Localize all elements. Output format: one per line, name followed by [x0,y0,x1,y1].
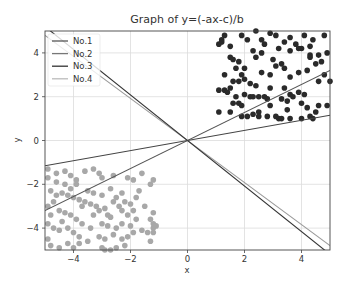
data-point [247,81,253,87]
data-point [250,48,256,54]
data-point [322,33,328,39]
data-point [265,114,271,120]
data-point [54,192,60,198]
data-point [45,175,51,181]
data-point [79,221,85,227]
data-point [76,197,82,203]
data-point [250,94,256,100]
data-point [71,230,77,236]
data-point [119,236,125,242]
data-point [270,57,276,63]
data-point [125,212,131,218]
data-point [287,35,293,41]
data-point [125,175,131,181]
data-point [313,61,319,67]
data-point [88,201,94,207]
data-point [91,212,97,218]
data-point [74,177,80,183]
x-tick-label: −2 [124,254,137,264]
legend-label: No.2 [73,49,93,59]
data-point [91,166,97,172]
data-point [119,221,125,227]
data-point [216,87,222,93]
data-point [122,199,128,205]
data-point [242,65,248,71]
data-point [111,232,117,238]
data-point [230,57,236,63]
data-point [94,203,100,209]
data-point [74,217,80,223]
data-point [267,85,273,91]
data-point [256,114,262,120]
data-point [45,221,51,227]
data-point [245,37,251,43]
data-point [236,79,242,85]
data-point [290,94,296,100]
data-point [267,72,273,78]
data-point [316,52,322,58]
data-point [96,234,102,240]
data-point [310,37,316,43]
data-point [54,171,60,177]
data-point [105,223,111,229]
data-point [48,212,54,218]
data-point [128,223,134,229]
data-point [242,92,248,98]
data-point [227,109,233,115]
data-point [133,195,139,201]
data-point [296,90,302,96]
data-point [256,94,262,100]
data-point [148,238,154,244]
data-point [304,105,310,111]
data-point [313,109,319,115]
data-point [51,225,57,231]
data-point [59,219,65,225]
data-point [239,33,245,39]
data-point [273,33,279,39]
data-point [102,206,108,212]
data-point [250,111,256,117]
data-point [139,227,145,233]
data-point [111,199,117,205]
data-point [299,100,305,106]
data-point [99,175,105,181]
data-point [324,103,330,109]
data-point [304,68,310,74]
data-point [76,241,82,247]
data-point [233,65,239,71]
data-point [65,192,71,198]
data-point [88,225,94,231]
y-tick-label: 0 [34,136,39,146]
data-point [85,238,91,244]
data-point [227,44,233,50]
data-point [102,236,108,242]
data-point [273,114,279,120]
data-point [62,168,68,174]
figure: Graph of y=(-ax-c)/b −4−2024−4−2024 x y … [0,0,346,283]
data-point [45,236,51,242]
data-point [82,199,88,205]
data-point [316,103,322,109]
x-tick-label: −4 [67,254,80,264]
legend-label: No.3 [73,61,93,71]
data-point [56,227,62,233]
data-point [222,33,228,39]
y-tick-label: −4 [26,223,39,233]
data-point [68,173,74,179]
data-point [151,177,157,183]
y-axis-label: y [12,137,22,142]
y-tick-label: 2 [34,92,39,102]
data-point [76,234,82,240]
data-point [279,96,285,102]
data-point [262,41,268,47]
data-point [153,223,159,229]
data-point [316,79,322,85]
data-point [287,116,293,122]
data-point [302,92,308,98]
data-point [276,46,282,52]
data-point [230,100,236,106]
data-point [239,103,245,109]
data-point [131,230,137,236]
data-point [319,59,325,65]
data-point [51,199,57,205]
